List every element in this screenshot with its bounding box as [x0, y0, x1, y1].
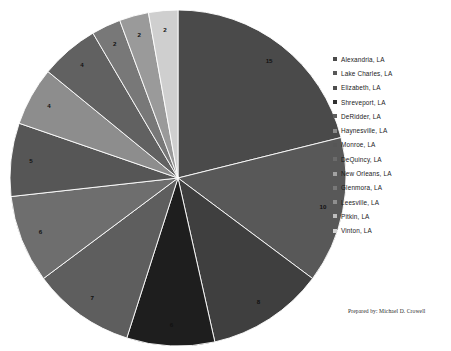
legend-item[interactable]: Vinton, LA — [333, 224, 451, 238]
legend-item-label: DeQuincy, LA — [341, 156, 382, 163]
legend-item-label: New Orleans, LA — [341, 170, 392, 177]
chart-legend: Alexandria, LALake Charles, LAElizabeth,… — [333, 52, 451, 238]
legend-swatch-icon — [333, 100, 337, 104]
legend-swatch-icon — [333, 229, 337, 233]
legend-swatch-icon — [333, 214, 337, 218]
legend-swatch-icon — [333, 57, 337, 61]
legend-item[interactable]: Monroe, LA — [333, 138, 451, 152]
pie-slice-value-label: 2 — [163, 26, 167, 33]
legend-item-label: Lake Charles, LA — [341, 70, 392, 77]
legend-swatch-icon — [333, 157, 337, 161]
pie-slice-value-label: 10 — [319, 203, 326, 210]
legend-item[interactable]: DeQuincy, LA — [333, 152, 451, 166]
pie-slice-value-label: 6 — [39, 228, 43, 235]
legend-swatch-icon — [333, 200, 337, 204]
legend-item[interactable]: Alexandria, LA — [333, 52, 451, 66]
legend-item-label: Monroe, LA — [341, 141, 376, 148]
legend-item[interactable]: New Orleans, LA — [333, 166, 451, 180]
pie-slice-value-label: 7 — [90, 294, 94, 301]
legend-item-label: Elizabeth, LA — [341, 84, 381, 91]
legend-item-label: Glenmora, LA — [341, 184, 382, 191]
legend-item[interactable]: Elizabeth, LA — [333, 81, 451, 95]
legend-swatch-icon — [333, 129, 337, 133]
legend-item-label: DeRidder, LA — [341, 113, 381, 120]
legend-item-label: Vinton, LA — [341, 227, 372, 234]
legend-swatch-icon — [333, 143, 337, 147]
pie-slice-value-label: 15 — [266, 57, 273, 64]
pie-slice-value-label: 2 — [137, 31, 141, 38]
pie-chart-page: 15108676544222 Alexandria, LALake Charle… — [0, 0, 451, 351]
pie-slice-value-label: 8 — [257, 298, 261, 305]
pie-slice-value-label: 5 — [29, 157, 33, 164]
legend-item-label: Shreveport, LA — [341, 99, 386, 106]
legend-swatch-icon — [333, 71, 337, 75]
legend-item[interactable]: Leesville, LA — [333, 195, 451, 209]
pie-slice-value-label: 2 — [113, 40, 117, 47]
legend-item[interactable]: Lake Charles, LA — [333, 66, 451, 80]
legend-item-label: Leesville, LA — [341, 199, 379, 206]
legend-item[interactable]: Glenmora, LA — [333, 181, 451, 195]
prepared-by-note: Prepared by: Michael D. Crowell — [348, 308, 426, 314]
legend-item[interactable]: Pitkin, LA — [333, 209, 451, 223]
legend-item[interactable]: DeRidder, LA — [333, 109, 451, 123]
legend-swatch-icon — [333, 172, 337, 176]
legend-item[interactable]: Haynesville, LA — [333, 123, 451, 137]
legend-item[interactable]: Shreveport, LA — [333, 95, 451, 109]
legend-item-label: Haynesville, LA — [341, 127, 387, 134]
legend-swatch-icon — [333, 86, 337, 90]
legend-swatch-icon — [333, 186, 337, 190]
pie-slice-value-label: 6 — [170, 321, 174, 328]
pie-chart[interactable]: 15108676544222 — [8, 8, 348, 348]
legend-swatch-icon — [333, 114, 337, 118]
pie-slice-value-label: 4 — [47, 102, 51, 109]
pie-slice-value-label: 4 — [80, 61, 84, 68]
legend-item-label: Alexandria, LA — [341, 56, 385, 63]
chart-area: 15108676544222 — [0, 0, 330, 351]
pie-slices — [10, 10, 346, 346]
legend-item-label: Pitkin, LA — [341, 213, 370, 220]
